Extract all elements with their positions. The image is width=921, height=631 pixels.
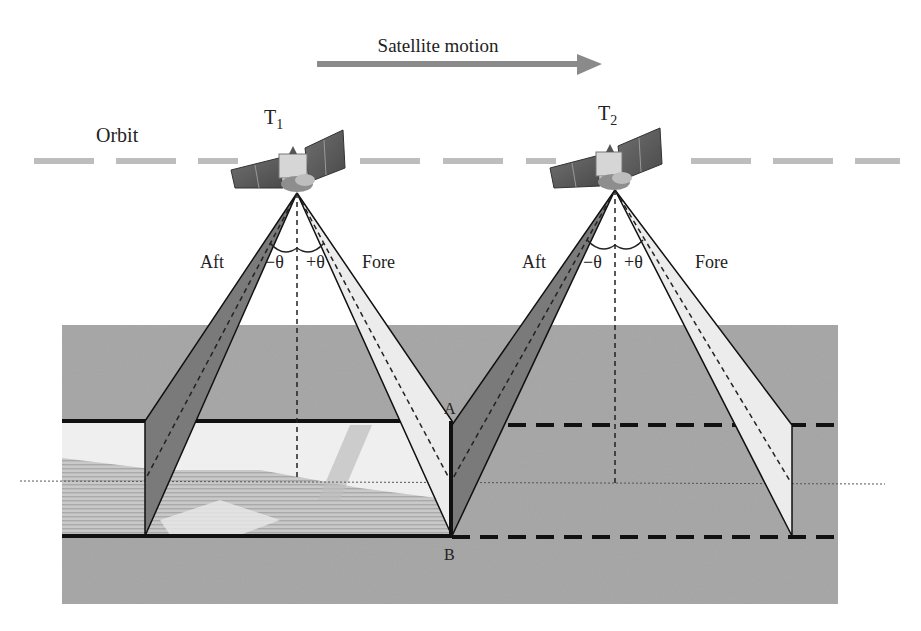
stereo-imaging-diagram: Satellite motion Orbit <box>0 0 921 631</box>
t2-plus-theta-label: +θ <box>624 252 643 272</box>
t1-plus-theta-label: +θ <box>306 252 325 272</box>
arrow-shaft <box>317 61 579 67</box>
t2-aft-label: Aft <box>522 252 546 272</box>
point-b-label: B <box>444 546 455 563</box>
satellite-t1-icon <box>231 130 345 192</box>
orbit-line <box>34 158 900 164</box>
t2-minus-theta-label: −θ <box>583 252 602 272</box>
t2-fore-label: Fore <box>695 252 728 272</box>
satellite-motion-arrow: Satellite motion <box>317 35 602 75</box>
satellite-t2-icon <box>550 128 662 190</box>
t1-minus-theta-label: −θ <box>265 252 284 272</box>
point-a-label: A <box>444 400 456 417</box>
satellite-motion-label: Satellite motion <box>378 35 499 56</box>
orbit-label: Orbit <box>96 124 139 146</box>
t1-fore-label: Fore <box>362 252 395 272</box>
arrow-head-icon <box>577 54 602 75</box>
t2-label: T2 <box>598 102 617 128</box>
t1-aft-label: Aft <box>200 252 224 272</box>
t1-label: T1 <box>264 106 283 132</box>
